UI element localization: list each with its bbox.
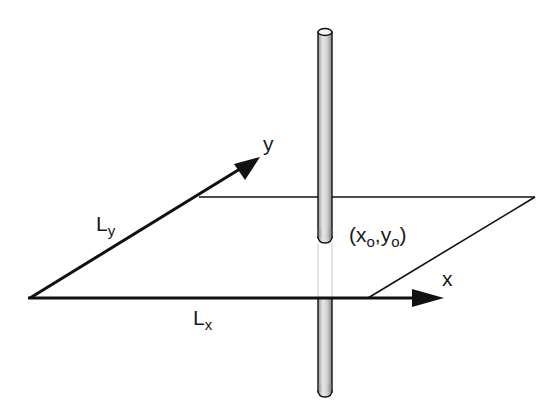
y-axis-label: y: [263, 133, 274, 154]
x-axis-label: x: [442, 268, 453, 289]
point-label: (xo,yo): [349, 224, 407, 245]
ly-label: Ly: [96, 213, 115, 234]
rod-upper: [318, 29, 332, 244]
x-axis-arrow: [28, 289, 444, 307]
rod-top-cap: [318, 29, 332, 36]
diagram-canvas: [0, 0, 547, 411]
y-axis-arrow: [30, 157, 260, 298]
rod-lower: [318, 298, 332, 397]
lx-label: Lx: [193, 307, 212, 328]
rod-hidden: [318, 243, 332, 298]
